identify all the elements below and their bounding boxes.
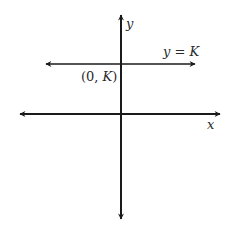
- line-equation-label: y = K: [162, 44, 201, 59]
- coordinate-diagram: y x y = K (0, K): [0, 0, 235, 241]
- line-equation-eq: =: [170, 44, 189, 59]
- intercept-open: (0,: [81, 69, 103, 84]
- intercept-point-label: (0, K): [81, 69, 117, 84]
- y-axis-label: y: [125, 16, 134, 31]
- x-axis-label: x: [207, 117, 215, 132]
- intercept-close: ): [112, 69, 117, 84]
- line-equation-const: K: [189, 44, 201, 59]
